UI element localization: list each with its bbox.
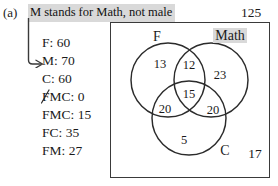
region-count-outside: 17 [248, 146, 262, 161]
list-item-text: F: 60 [42, 35, 70, 50]
set-label-c: C [220, 143, 229, 158]
list-item: FC: 35 [42, 124, 91, 142]
set-label-f: F [153, 29, 161, 44]
list-item-text: C: 60 [42, 71, 72, 86]
list-item: M: 70 [42, 52, 91, 70]
list-item-text: FC: 35 [42, 125, 79, 140]
list-item: FMC: 15 [42, 106, 91, 124]
region-count-f-c: 20 [159, 102, 172, 116]
list-item: FMC: 0 [42, 88, 91, 106]
list-item-text: M: 70 [42, 53, 75, 68]
venn-circles: F Math C 13 12 23 15 20 20 5 17 [110, 22, 270, 178]
given-values-list: F: 60 M: 70 C: 60 FMC: 0 FMC: 15 FC: 35 … [42, 34, 91, 160]
part-label: (a) [3, 6, 17, 19]
region-count-math-only: 23 [214, 68, 227, 82]
list-item-text: FMC: 15 [42, 107, 91, 122]
region-count-math-c: 20 [207, 103, 220, 117]
list-item: C: 60 [42, 70, 91, 88]
venn-diagram-figure: (a) M stands for Math, not male F: 60 M:… [0, 0, 278, 186]
list-item: FM: 27 [42, 142, 91, 160]
universe-count-label: 125 [241, 6, 261, 20]
list-item: F: 60 [42, 34, 91, 52]
list-item-text: FM: 27 [42, 143, 82, 158]
region-count-f-only: 13 [154, 57, 167, 71]
annotation-note: M stands for Math, not male [28, 4, 175, 22]
list-item-text: FMC: 0 [42, 89, 84, 104]
region-count-f-math: 12 [183, 58, 196, 72]
set-label-math: Math [215, 28, 245, 43]
region-count-c-only: 5 [181, 133, 187, 147]
region-count-f-math-c: 15 [183, 87, 196, 101]
